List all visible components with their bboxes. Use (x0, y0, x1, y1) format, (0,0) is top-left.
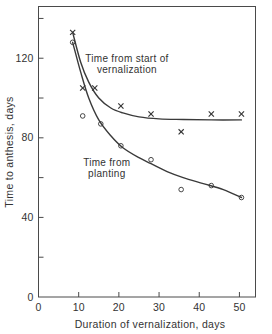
x-tick-label: 30 (153, 301, 165, 313)
y-tick-label: 80 (21, 131, 33, 143)
chart-figure: 40801200 01020304050 Time from start ofv… (0, 0, 272, 334)
x-tick-label: 40 (193, 301, 205, 313)
y-tick-label: 40 (21, 211, 33, 223)
annotation-label-1: Time fromplanting (83, 157, 130, 179)
y-axis-title: Time to anthesis, days (3, 96, 15, 207)
x-tick-label: 0 (35, 301, 41, 313)
chart-canvas: 40801200 01020304050 Time from start ofv… (0, 0, 272, 334)
x-axis-title: Duration of vernalization, days (75, 318, 226, 330)
chart-background (0, 0, 272, 334)
x-tick-label: 50 (233, 301, 245, 313)
x-tick-label: 20 (113, 301, 125, 313)
annotation-label-0: Time from start ofvernalization (85, 53, 168, 75)
x-tick-label: 10 (73, 301, 85, 313)
y-tick-label: 120 (15, 52, 33, 64)
y-tick-label-zero: 0 (27, 291, 33, 303)
